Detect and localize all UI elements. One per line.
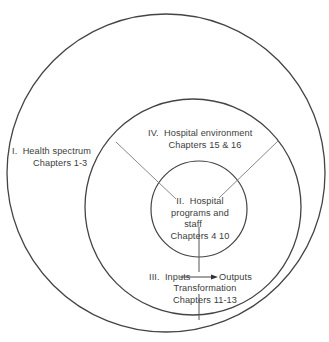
- region-iii-outputs: Outputs: [219, 272, 252, 284]
- region-iii-output-label: Outputs: [219, 272, 252, 282]
- region-iv-label: IV. Hospital environment Chapters 15 & 1…: [148, 128, 252, 151]
- region-i-label: I. Health spectrum Chapters 1-3: [12, 146, 91, 169]
- region-iv-chapters: Chapters 15 & 16: [148, 140, 252, 152]
- region-ii-numeral: II.: [176, 196, 184, 206]
- region-ii-label: II. Hospital programs and staff Chapters…: [159, 196, 241, 242]
- region-iv-title: Hospital environment: [164, 128, 252, 138]
- region-iii-input-label: Inputs: [165, 272, 191, 282]
- region-iii-chapters: Chapters 11-13: [150, 295, 260, 307]
- region-iii-process-label: Transformation: [150, 283, 260, 295]
- region-ii-chapters: Chapters 4 10: [159, 231, 241, 243]
- arrow-head-icon: [211, 275, 218, 280]
- region-ii-title-line3: staff: [159, 219, 241, 231]
- region-ii-title: Hospital: [190, 196, 224, 206]
- region-iii-numeral: III.: [149, 272, 160, 282]
- region-i-title: Health spectrum: [23, 146, 91, 156]
- region-ii-title-line2: programs and: [159, 208, 241, 220]
- region-iv-numeral: IV.: [148, 128, 159, 138]
- region-iii-process: Transformation Chapters 11-13: [150, 283, 260, 306]
- region-iii-inputs: III. Inputs: [149, 272, 191, 284]
- region-i-numeral: I.: [12, 146, 17, 156]
- region-i-chapters: Chapters 1-3: [12, 158, 91, 170]
